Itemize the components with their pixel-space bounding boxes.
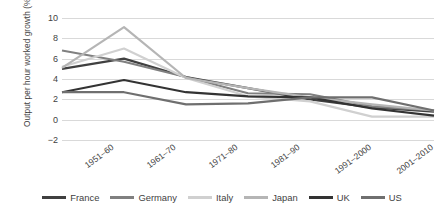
legend-item-us[interactable]: US [361, 192, 402, 203]
legend-label: UK [337, 192, 350, 203]
y-tick-label: −2 [48, 135, 58, 145]
series-lines [62, 18, 434, 140]
line-chart: Output per hour worked growth (% p.a.) 1… [0, 0, 444, 217]
legend-label: Japan [272, 192, 298, 203]
x-tick-label: 1991–2000 [333, 142, 373, 176]
legend-item-japan[interactable]: Japan [244, 192, 298, 203]
y-tick-label: 8 [53, 33, 58, 43]
x-tick-label: 1971–80 [207, 142, 240, 170]
y-tick-label: 6 [53, 54, 58, 64]
chart-legend: FranceGermanyItalyJapanUKUS [0, 192, 444, 203]
legend-swatch-icon [42, 196, 66, 199]
legend-label: US [389, 192, 402, 203]
plot-area: 1086420−2 1951–601961–701971–801981–9019… [62, 18, 434, 140]
legend-item-italy[interactable]: Italy [188, 192, 233, 203]
legend-swatch-icon [110, 196, 134, 199]
legend-item-uk[interactable]: UK [309, 192, 350, 203]
legend-item-germany[interactable]: Germany [110, 192, 177, 203]
gridline--2 [62, 140, 434, 141]
legend-label: France [70, 192, 99, 203]
y-tick-label: 4 [53, 74, 58, 84]
legend-swatch-icon [361, 196, 385, 199]
legend-swatch-icon [188, 196, 212, 199]
x-tick-label: 1951–60 [83, 142, 116, 170]
y-tick-label: 2 [53, 94, 58, 104]
y-axis-title: Output per hour worked growth (% p.a.) [23, 0, 33, 133]
legend-swatch-icon [309, 196, 333, 199]
x-tick-label: 1981–90 [269, 142, 302, 170]
y-tick-label: 10 [48, 13, 58, 23]
x-tick-label: 1961–70 [145, 142, 178, 170]
x-tick-label: 2001–2010 [395, 142, 435, 176]
y-tick-label: 0 [53, 115, 58, 125]
legend-label: Italy [216, 192, 233, 203]
legend-label: Germany [138, 192, 177, 203]
legend-swatch-icon [244, 196, 268, 199]
legend-item-france[interactable]: France [42, 192, 99, 203]
